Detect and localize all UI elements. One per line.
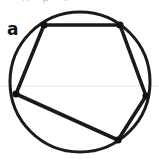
panel-label-a: a <box>7 21 18 38</box>
geometry-diagram-svg <box>0 0 159 160</box>
top-right-vertex-marker <box>116 21 123 28</box>
inscribed-pentagon-shape <box>16 25 146 140</box>
figure-panel: n p t a <box>0 0 159 160</box>
circumscribed-circle-shape <box>10 12 150 152</box>
top-left-vertex-marker <box>40 21 47 28</box>
left-vertex-marker <box>12 90 19 97</box>
bottom-vertex-marker <box>114 136 121 143</box>
right-vertex-marker <box>142 92 149 99</box>
